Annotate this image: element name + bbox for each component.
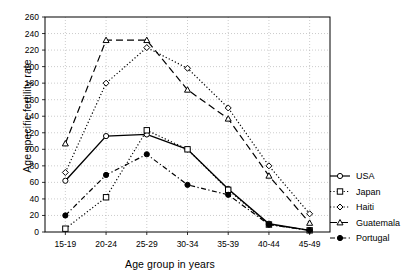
- data-point-marker: [103, 172, 108, 177]
- x-tick-label: 30-34: [177, 239, 199, 249]
- grid-lines: [45, 17, 330, 232]
- plot-frame: [45, 17, 330, 232]
- data-point-marker: [103, 195, 108, 200]
- legend-item-haiti[interactable]: Haiti: [330, 202, 374, 212]
- data-point-marker: [337, 189, 342, 194]
- x-tick-label: 45-49: [299, 239, 321, 249]
- data-point-marker: [144, 45, 150, 51]
- legend-item-guatemala[interactable]: Guatemala: [330, 218, 400, 228]
- y-tick-label: 0: [34, 227, 39, 237]
- data-point-marker: [62, 169, 68, 175]
- data-point-marker: [337, 235, 342, 240]
- data-point-marker: [226, 192, 231, 197]
- x-tick-label: 20-24: [95, 239, 117, 249]
- legend-label: Haiti: [356, 202, 374, 212]
- x-tick-label: 40-44: [258, 239, 280, 249]
- x-tick-label: 15-19: [54, 239, 76, 249]
- data-point-marker: [225, 116, 231, 121]
- legend-label: Guatemala: [356, 218, 400, 228]
- data-point-marker: [307, 228, 312, 233]
- x-axis-ticks: 15-1920-2425-2930-3435-3940-4445-49: [54, 232, 320, 249]
- series-haiti: [62, 45, 312, 217]
- data-point-marker: [337, 173, 342, 178]
- legend-item-japan[interactable]: Japan: [330, 187, 381, 197]
- y-tick-label: 20: [30, 210, 40, 220]
- legend-item-portugal[interactable]: Portugal: [330, 233, 390, 243]
- data-point-marker: [266, 163, 272, 169]
- x-tick-label: 25-29: [136, 239, 158, 249]
- data-point-marker: [63, 226, 68, 231]
- plot-area: 020406080100120140160180200220240260 15-…: [0, 0, 420, 280]
- x-tick-label: 35-39: [217, 239, 239, 249]
- legend-item-usa[interactable]: USA: [330, 171, 375, 181]
- data-point-marker: [307, 220, 313, 225]
- data-point-marker: [144, 152, 149, 157]
- x-axis-title: Age group in years: [0, 258, 340, 270]
- data-point-marker: [62, 141, 68, 146]
- legend-label: Portugal: [356, 233, 390, 243]
- data-point-marker: [185, 147, 190, 152]
- y-axis-title: Age specific fertility rate: [21, 36, 33, 196]
- data-point-marker: [103, 133, 108, 138]
- data-point-marker: [307, 211, 313, 217]
- data-point-marker: [144, 128, 149, 133]
- fertility-rate-chart: Age specific fertility rate Age group in…: [0, 0, 420, 280]
- chart-legend: USAJapanHaitiGuatemalaPortugal: [330, 171, 400, 243]
- legend-label: Japan: [356, 187, 381, 197]
- data-point-marker: [337, 204, 343, 210]
- y-tick-label: 260: [25, 12, 39, 22]
- data-point-marker: [103, 80, 109, 86]
- data-point-marker: [185, 182, 190, 187]
- series-portugal: [63, 152, 312, 233]
- data-point-marker: [266, 222, 271, 227]
- data-point-marker: [63, 178, 68, 183]
- legend-label: USA: [356, 171, 375, 181]
- data-point-marker: [63, 213, 68, 218]
